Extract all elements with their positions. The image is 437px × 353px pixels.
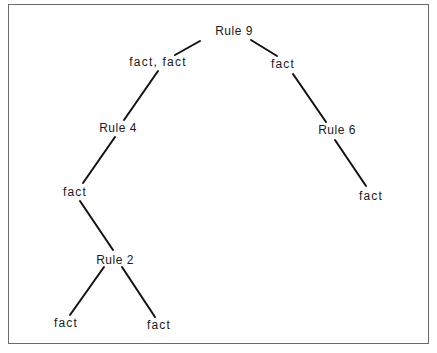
- node-fact_lr: fact: [147, 318, 171, 332]
- node-rule2: Rule 2: [96, 253, 134, 267]
- node-fact_r: fact: [271, 57, 295, 71]
- node-rule6: Rule 6: [318, 123, 356, 137]
- edge-rule9-fact_fact: [175, 41, 200, 55]
- edge-rule2-fact_lr: [122, 267, 155, 317]
- edge-fact_fact-rule4: [124, 71, 158, 120]
- node-fact_fact: fact, fact: [129, 55, 186, 69]
- node-fact_r2: fact: [359, 189, 383, 203]
- edge-rule6-fact_r2: [335, 140, 366, 186]
- node-rule9: Rule 9: [215, 24, 253, 38]
- edge-rule2-fact_ll: [70, 267, 104, 315]
- tree-edges: [0, 0, 437, 353]
- node-fact_ll: fact: [54, 316, 78, 330]
- edge-rule4-fact_l2: [83, 137, 115, 183]
- node-rule4: Rule 4: [99, 121, 137, 135]
- edge-rule9-fact_r: [251, 40, 277, 56]
- node-fact_l2: fact: [63, 185, 87, 199]
- edge-fact_l2-rule2: [80, 201, 113, 250]
- edge-fact_r-rule6: [293, 74, 326, 122]
